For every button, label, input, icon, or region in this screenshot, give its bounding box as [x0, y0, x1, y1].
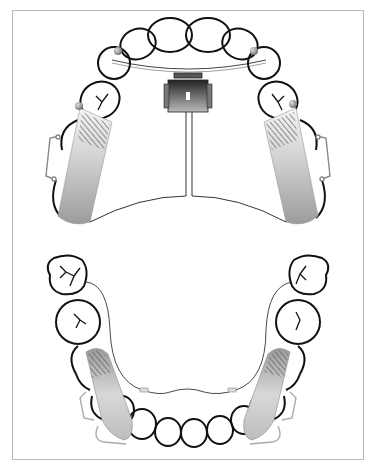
ball-clasp-icon [75, 102, 83, 110]
lower-premolar-left [56, 300, 100, 344]
lower-incisor [207, 416, 233, 444]
upper-tooth [116, 24, 160, 65]
lower-incisor [155, 418, 181, 446]
ball-clasp-icon [250, 47, 258, 55]
upper-left-splint [58, 108, 112, 224]
expansion-screw [164, 73, 212, 112]
lower-molar-left [48, 255, 87, 294]
upper-right-clasp [316, 135, 330, 181]
lower-molar-right [289, 255, 328, 294]
upper-left-clasp [46, 135, 60, 181]
dental-arches-illustration [0, 0, 376, 472]
lower-incisor [181, 419, 207, 447]
ball-clasp-icon [114, 47, 122, 55]
lower-left-splint [86, 348, 132, 440]
lower-right-splint [244, 348, 290, 440]
ball-clasp-icon [289, 100, 297, 108]
upper-tooth [218, 24, 262, 65]
lower-premolar-right [276, 300, 320, 344]
